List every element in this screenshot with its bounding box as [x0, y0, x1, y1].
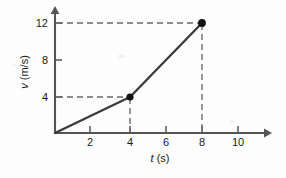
x-tick-labels: 2 4 6 8 10 — [87, 136, 244, 148]
y-tick-label-4: 4 — [42, 91, 48, 103]
guide-lines-group — [57, 23, 202, 132]
chart-canvas: 2 4 6 8 10 4 8 12 t (s) v (m/s) — [0, 0, 286, 178]
x-tick-label-8: 8 — [199, 136, 205, 148]
y-tick-label-12: 12 — [36, 17, 48, 29]
data-point-marker-4-4 — [126, 93, 133, 100]
x-tick-label-2: 2 — [87, 136, 93, 148]
x-tick-label-6: 6 — [163, 136, 169, 148]
velocity-line-series — [55, 23, 202, 133]
y-tick-label-8: 8 — [42, 54, 48, 66]
y-axis-title: v (m/s) — [18, 55, 30, 89]
x-tick-label-4: 4 — [127, 136, 133, 148]
x-axis-title-unit: (s) — [157, 152, 170, 164]
x-tick-label-10: 10 — [232, 136, 244, 148]
y-tick-labels: 4 8 12 — [36, 17, 48, 103]
x-axis-arrowhead — [264, 128, 272, 137]
axes-group — [51, 6, 272, 138]
y-axis-arrowhead — [51, 6, 60, 14]
data-point-marker-8-12 — [198, 19, 206, 27]
y-axis-title-unit: (m/s) — [18, 55, 30, 80]
x-axis-title: t (s) — [151, 152, 170, 164]
velocity-time-graph-figure: 2 4 6 8 10 4 8 12 t (s) v (m/s) — [0, 0, 286, 178]
